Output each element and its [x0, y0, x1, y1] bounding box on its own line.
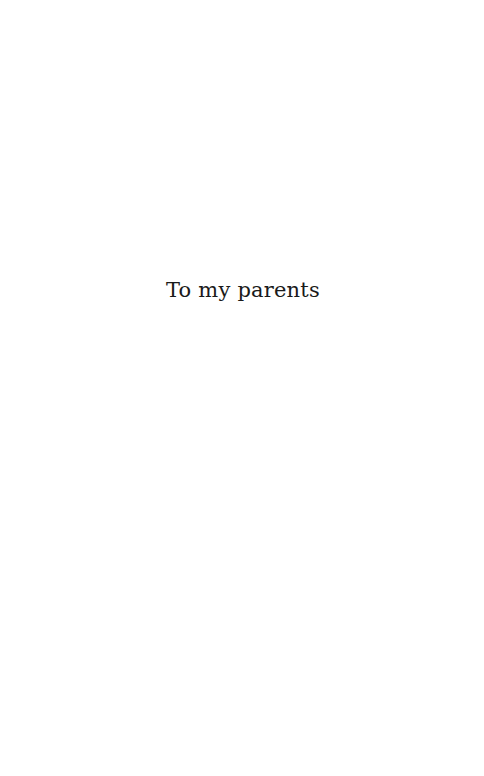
dedication-text: To my parents [0, 276, 484, 304]
book-page: To my parents [0, 0, 484, 776]
